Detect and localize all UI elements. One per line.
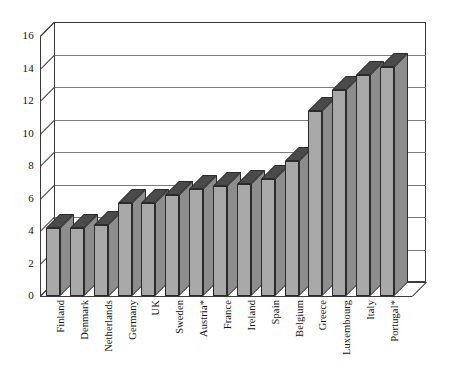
bar-luxembourg <box>332 90 346 296</box>
bar-portugal- <box>380 67 394 296</box>
bar-uk <box>141 203 155 296</box>
x-label-luxembourg: Luxembourg <box>342 300 353 355</box>
bar-belgium <box>285 161 299 296</box>
bar-front-face <box>261 179 275 296</box>
bar-netherlands <box>94 225 108 297</box>
y-label-16: 16 <box>23 30 34 41</box>
x-label-portugal-: Portugal* <box>390 300 401 342</box>
bar-front-face <box>94 225 108 297</box>
y-label-2: 2 <box>28 258 34 269</box>
bar-austria- <box>189 189 203 296</box>
x-label-sweden: Sweden <box>175 300 186 334</box>
bar-sweden <box>165 195 179 296</box>
gridline-16 <box>54 22 426 23</box>
bar-front-face <box>118 203 132 296</box>
bar-france <box>213 186 227 297</box>
bar-denmark <box>70 228 84 296</box>
x-label-belgium: Belgium <box>295 300 306 337</box>
bar-spain <box>261 179 275 296</box>
bar-germany <box>118 203 132 296</box>
bar-side-face <box>394 53 408 296</box>
bar-front-face <box>46 228 60 296</box>
bar-series <box>40 36 412 296</box>
y-label-10: 10 <box>23 128 34 139</box>
bar-front-face <box>285 161 299 296</box>
y-label-14: 14 <box>23 63 34 74</box>
y-label-6: 6 <box>28 193 34 204</box>
x-label-germany: Germany <box>128 300 139 340</box>
x-label-france: France <box>223 300 234 329</box>
bar-front-face <box>70 228 84 296</box>
floor-depth-right <box>412 282 427 297</box>
x-label-ireland: Ireland <box>247 300 258 330</box>
bar-greece <box>308 111 322 296</box>
y-label-12: 12 <box>23 95 34 106</box>
bar-front-face <box>213 186 227 297</box>
x-label-austria-: Austria* <box>199 300 210 337</box>
bar-front-face <box>332 90 346 296</box>
x-label-denmark: Denmark <box>80 300 91 340</box>
bar-front-face <box>141 203 155 296</box>
bar-front-face <box>165 195 179 296</box>
y-label-0: 0 <box>28 290 34 301</box>
x-label-greece: Greece <box>318 300 329 330</box>
axis-depth-top <box>40 22 55 37</box>
bar-italy <box>356 75 370 296</box>
bar-finland <box>46 228 60 296</box>
y-label-8: 8 <box>28 160 34 171</box>
x-axis-line <box>40 296 412 297</box>
bar-front-face <box>308 111 322 296</box>
x-label-italy: Italy <box>366 300 377 320</box>
x-axis-tick-labels: FinlandDenmarkNetherlandsGermanyUKSweden… <box>40 300 412 380</box>
y-label-4: 4 <box>28 225 34 236</box>
bar-ireland <box>237 184 251 296</box>
x-label-spain: Spain <box>271 300 282 324</box>
bar-front-face <box>356 75 370 296</box>
bar-front-face <box>189 189 203 296</box>
x-label-netherlands: Netherlands <box>104 300 115 352</box>
bar-front-face <box>237 184 251 296</box>
bar-front-face <box>380 67 394 296</box>
x-label-finland: Finland <box>56 300 67 333</box>
bar-chart: 0246810121416 FinlandDenmarkNetherlandsG… <box>0 0 456 380</box>
x-label-uk: UK <box>151 300 162 315</box>
